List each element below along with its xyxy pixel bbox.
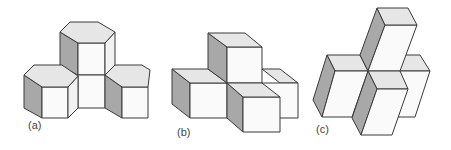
face-top (262, 69, 298, 83)
figure-b (172, 33, 298, 132)
face-front (78, 43, 105, 75)
figure-canvas (0, 0, 451, 150)
face-front (243, 97, 280, 132)
figure-c-label: (c) (316, 123, 329, 135)
face-front (78, 75, 105, 108)
figure-a (24, 22, 150, 118)
face-front (190, 83, 227, 118)
face-front (122, 87, 148, 118)
figure-b-label: (b) (177, 126, 190, 138)
figure-c (313, 8, 430, 135)
face-front (227, 47, 262, 83)
face-front (42, 87, 68, 118)
figure-a-label: (a) (28, 119, 41, 131)
